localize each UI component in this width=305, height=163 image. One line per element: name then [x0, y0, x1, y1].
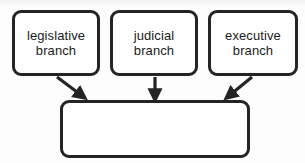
edge-executive-answer [230, 77, 252, 95]
node-legislative-branch[interactable]: legislative branch [12, 10, 100, 76]
node-judicial-branch-label: judicial branch [132, 28, 177, 59]
scan-top-band [0, 0, 305, 7]
node-answer-blank[interactable] [60, 100, 250, 158]
edge-legislative-answer [57, 77, 81, 95]
node-legislative-branch-label: legislative branch [25, 28, 87, 59]
diagram-canvas: legislative branch judicial branch execu… [0, 0, 305, 163]
node-judicial-branch[interactable]: judicial branch [110, 10, 198, 76]
node-executive-branch[interactable]: executive branch [208, 10, 298, 76]
node-executive-branch-label: executive branch [223, 28, 283, 59]
